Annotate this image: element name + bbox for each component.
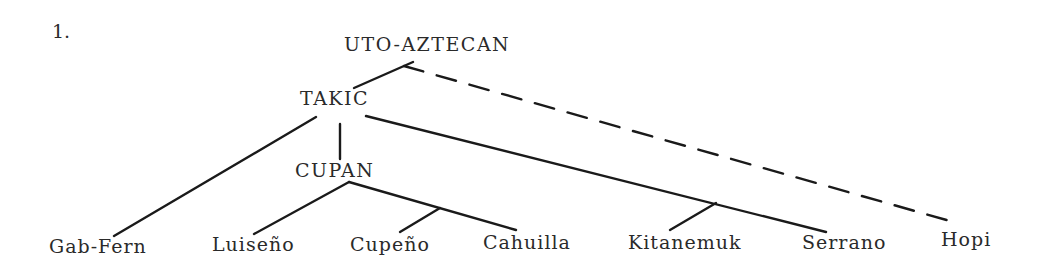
leaf-cupeno: Cupeño (350, 235, 430, 254)
edge-cupan-cahuilla (349, 182, 516, 230)
tree-edges (0, 0, 1046, 268)
edge-cupan-luiseno (254, 182, 349, 234)
edge-kitanemuk (670, 203, 716, 230)
leaf-hopi: Hopi (941, 230, 991, 249)
edge-utoaztecan-hopi-dashed (404, 66, 950, 221)
node-cupan: CUPAN (295, 161, 374, 180)
leaf-cahuilla: Cahuilla (483, 233, 571, 252)
node-takic: TAKIC (300, 89, 369, 108)
leaf-kitanemuk: Kitanemuk (628, 233, 741, 252)
leaf-luiseno: Luiseño (212, 235, 295, 254)
edge-takic-serrano (366, 116, 826, 232)
leaf-gab-fern: Gab-Fern (49, 237, 147, 256)
leaf-serrano: Serrano (802, 233, 886, 252)
edge-takic-gabfern (114, 117, 316, 236)
edge-cupeno (400, 208, 440, 232)
figure-number: 1. (52, 22, 70, 41)
node-uto-aztecan: UTO-AZTECAN (344, 35, 510, 54)
language-tree-diagram: 1. UTO-AZTECAN TAKIC CUPAN Gab-Fern Luis… (0, 0, 1046, 268)
